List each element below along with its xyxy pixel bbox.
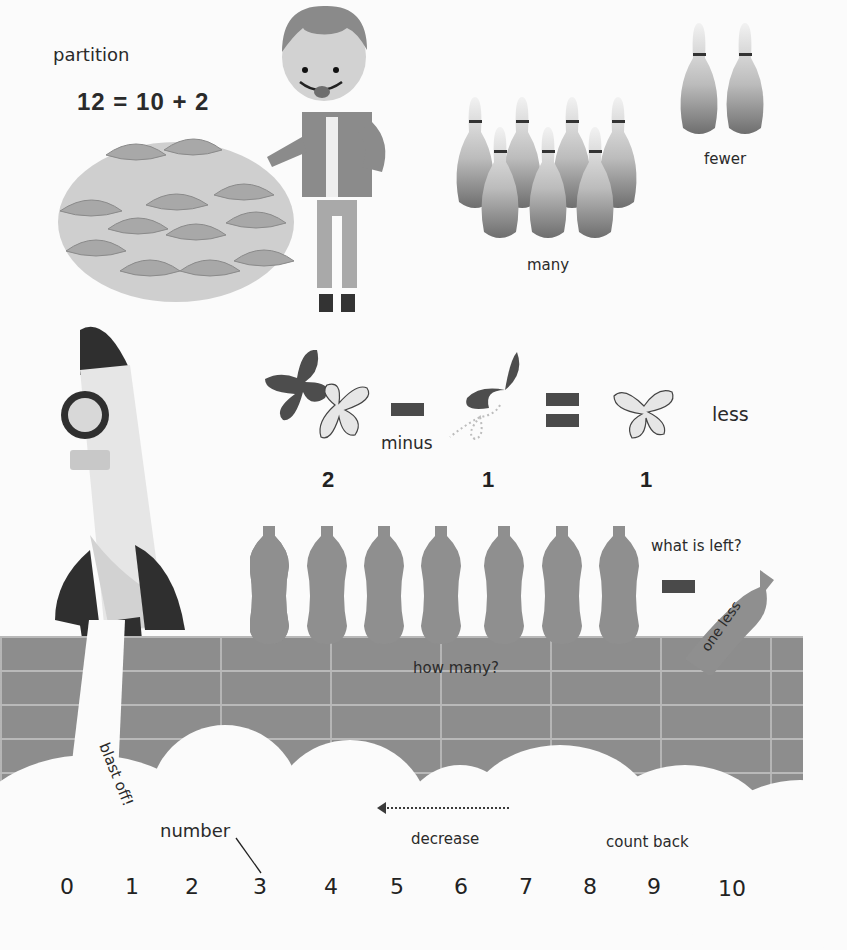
how-many-label: how many? (413, 659, 499, 677)
number-label: number (160, 820, 230, 841)
what-is-left-label: what is left? (651, 537, 742, 555)
value-two: 2 (322, 467, 334, 493)
minus-label: minus (381, 433, 433, 453)
bottle-row (250, 526, 650, 646)
number-8: 8 (575, 874, 605, 899)
equals-sign (546, 393, 579, 427)
number-4: 4 (316, 874, 346, 899)
number-5: 5 (382, 874, 412, 899)
fewer-label: fewer (704, 150, 746, 168)
number-7: 7 (511, 874, 541, 899)
bowling-pins-many (450, 92, 650, 242)
number-10: 10 (712, 876, 752, 901)
many-label: many (527, 256, 569, 274)
number-2: 2 (177, 874, 207, 899)
number-pointer-line (234, 836, 264, 876)
bowling-pins-fewer (675, 20, 775, 140)
butterfly-flying-away (440, 350, 530, 445)
decrease-arrow (377, 800, 512, 814)
tipped-bottle (680, 565, 790, 675)
decrease-label: decrease (411, 830, 479, 848)
boy-illustration (262, 2, 412, 317)
number-3: 3 (245, 874, 275, 899)
number-6: 6 (446, 874, 476, 899)
partition-label: partition (53, 44, 129, 65)
partition-equation: 12 = 10 + 2 (77, 88, 209, 116)
number-9: 9 (639, 874, 669, 899)
value-one-b: 1 (640, 467, 652, 493)
count-back-label: count back (606, 833, 689, 851)
butterflies-two (265, 350, 380, 445)
number-1: 1 (117, 874, 147, 899)
less-label: less (712, 403, 749, 425)
butterfly-remaining (612, 378, 677, 440)
minus-sign (391, 403, 424, 416)
number-0: 0 (52, 874, 82, 899)
value-one-a: 1 (482, 467, 494, 493)
